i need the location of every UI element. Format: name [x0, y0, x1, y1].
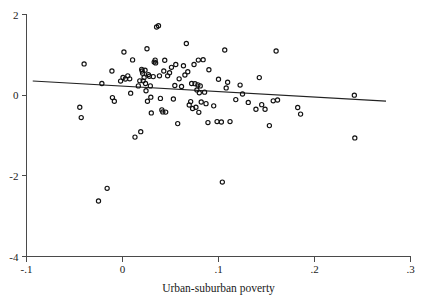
scatter-point: [173, 83, 177, 87]
scatter-point: [204, 102, 208, 106]
scatter-point: [144, 89, 148, 93]
scatter-point: [82, 62, 86, 66]
scatter-point: [271, 99, 275, 103]
x-tick-label: .3: [406, 263, 415, 275]
scatter-point: [223, 48, 227, 52]
scatter-point: [296, 105, 300, 109]
regression-fit-line: [33, 81, 386, 101]
scatter-point: [216, 77, 220, 81]
scatter-point: [181, 64, 185, 68]
scatter-point: [186, 70, 190, 74]
scatter-point: [163, 58, 167, 62]
scatter-point: [184, 41, 188, 45]
scatter-point: [263, 107, 267, 111]
axis-frame-path: [27, 15, 411, 257]
scatter-point: [162, 69, 166, 73]
scatter-point: [220, 180, 224, 184]
scatter-point: [79, 115, 83, 119]
scatter-point: [254, 107, 258, 111]
scatter-point: [78, 105, 82, 109]
scatter-point: [179, 84, 183, 88]
scatter-point: [257, 76, 261, 80]
scatter-point: [149, 111, 153, 115]
axis-frame: [27, 15, 411, 257]
scatter-point: [234, 98, 238, 102]
scatter-point: [197, 91, 201, 95]
scatter-point: [352, 93, 356, 97]
scatter-point: [267, 124, 271, 128]
scatter-point: [224, 86, 228, 90]
scatter-point: [145, 47, 149, 51]
scatter-point: [353, 136, 357, 140]
scatter-point: [130, 58, 134, 62]
y-axis-ticks: [22, 15, 27, 257]
scatter-point: [174, 62, 178, 66]
scatter-data-points: [78, 24, 357, 203]
scatter-point: [149, 95, 153, 99]
y-axis-tick-labels: 20-2-4: [9, 9, 19, 263]
x-tick-label: .2: [310, 263, 318, 275]
scatter-point: [215, 119, 219, 123]
scatter-point: [164, 110, 168, 114]
scatter-point: [96, 199, 100, 203]
x-axis-ticks: [27, 257, 411, 262]
scatter-point: [177, 77, 181, 81]
scatter-point: [129, 91, 133, 95]
scatter-point: [122, 50, 126, 54]
scatter-point: [171, 97, 175, 101]
scatter-point: [201, 58, 205, 62]
scatter-point: [110, 69, 114, 73]
scatter-plot-figure: -.10.1.2.3 20-2-4 Urban-suburban poverty: [0, 0, 421, 296]
x-tick-label: 0: [120, 263, 126, 275]
scatter-point: [197, 110, 201, 114]
x-tick-label: .1: [214, 263, 222, 275]
scatter-point: [145, 99, 149, 103]
scatter-point: [133, 135, 137, 139]
scatter-point: [226, 80, 230, 84]
scatter-point: [199, 100, 203, 104]
x-axis-title: Urban-suburban poverty: [162, 282, 275, 295]
scatter-point: [275, 98, 279, 102]
scatter-point: [246, 100, 250, 104]
scatter-point: [228, 119, 232, 123]
scatter-point: [196, 58, 200, 62]
scatter-point: [207, 68, 211, 72]
scatter-point: [158, 96, 162, 100]
scatter-point: [105, 186, 109, 190]
y-tick-label: -4: [9, 251, 19, 263]
scatter-point: [192, 62, 196, 66]
scatter-point: [260, 103, 264, 107]
x-tick-label: -.1: [21, 263, 33, 275]
plot-canvas: -.10.1.2.3 20-2-4 Urban-suburban poverty: [0, 0, 421, 296]
scatter-point: [274, 49, 278, 53]
scatter-point: [206, 120, 210, 124]
scatter-point: [157, 74, 161, 78]
y-tick-label: 0: [13, 89, 19, 101]
scatter-point: [176, 122, 180, 126]
scatter-point: [169, 65, 173, 69]
y-tick-label: 2: [13, 9, 19, 21]
scatter-point: [139, 130, 143, 134]
scatter-point: [219, 120, 223, 124]
scatter-point: [212, 104, 216, 108]
y-tick-label: -2: [9, 170, 18, 182]
scatter-point: [298, 112, 302, 116]
x-axis-tick-labels: -.10.1.2.3: [21, 263, 416, 275]
scatter-point: [238, 83, 242, 87]
scatter-point: [112, 99, 116, 103]
